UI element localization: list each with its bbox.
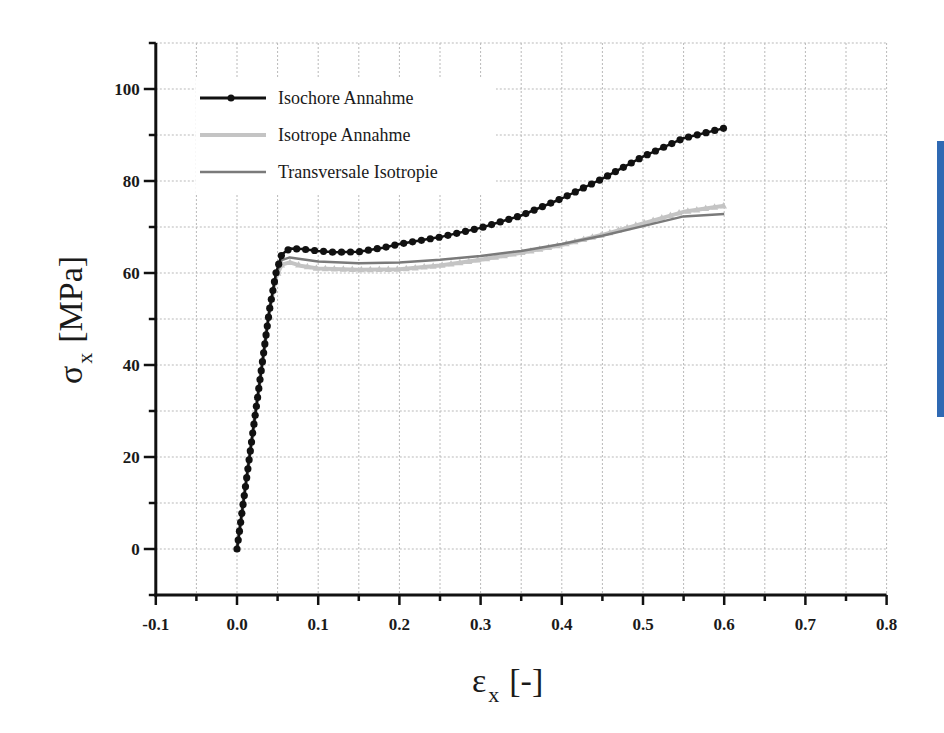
data-point-marker (391, 241, 398, 248)
svg-text:σx[MPa]: σx[MPa] (52, 256, 97, 384)
data-point-marker (233, 545, 240, 552)
x-tick-label: 0.1 (308, 615, 329, 634)
data-point-marker (236, 528, 243, 535)
data-point-marker (471, 226, 478, 233)
data-point-marker (604, 172, 611, 179)
data-point-marker (247, 447, 254, 454)
data-point-marker (266, 305, 273, 312)
legend-label: Isochore Annahme (278, 88, 413, 108)
y-tick-label: 60 (123, 264, 140, 283)
data-point-marker (668, 140, 675, 147)
data-point-marker (636, 155, 643, 162)
data-point-marker (418, 237, 425, 244)
x-tick-label: 0.3 (470, 615, 491, 634)
data-point-marker (660, 144, 667, 151)
x-tick-label: 0.8 (876, 615, 897, 634)
data-point-marker (249, 429, 256, 436)
data-point-marker (320, 248, 327, 255)
data-point-marker (620, 164, 627, 171)
x-tick-label: 0.0 (226, 615, 247, 634)
x-tick-label: 0.4 (551, 615, 573, 634)
data-point-marker (252, 412, 259, 419)
data-point-marker (311, 247, 318, 254)
data-point-marker (453, 230, 460, 237)
x-axis-unit: [-] (509, 662, 543, 699)
data-point-marker (514, 213, 521, 220)
y-axis-subscript: x (72, 353, 97, 364)
data-point-marker (555, 196, 562, 203)
data-point-marker (444, 232, 451, 239)
data-point-marker (547, 200, 554, 207)
data-point-marker (685, 133, 692, 140)
y-tick-label: 100 (114, 80, 140, 99)
data-point-marker (241, 492, 248, 499)
data-point-marker (254, 394, 261, 401)
data-point-marker (564, 192, 571, 199)
svg-text:εx[-]: εx[-] (472, 662, 543, 707)
data-point-marker (246, 456, 253, 463)
data-point-marker (253, 403, 260, 410)
y-tick-label: 40 (123, 356, 140, 375)
side-color-bar (937, 141, 944, 417)
x-axis-subscript: x (488, 682, 499, 707)
y-tick-label: 20 (123, 448, 140, 467)
y-axis-ticks: 020406080100 (114, 43, 156, 595)
data-point-marker (676, 136, 683, 143)
data-point-marker (479, 224, 486, 231)
x-tick-label: 0.5 (632, 615, 653, 634)
data-point-marker (531, 206, 538, 213)
data-point-marker (588, 180, 595, 187)
data-point-marker (365, 247, 372, 254)
data-point-marker (272, 269, 279, 276)
data-point-marker (409, 238, 416, 245)
data-point-marker (238, 510, 245, 517)
data-point-marker (278, 252, 285, 259)
data-point-marker (497, 218, 504, 225)
data-point-marker (269, 287, 276, 294)
legend: Isochore Annahme Isotrope Annahme Transv… (196, 78, 496, 194)
data-point-marker (711, 127, 718, 134)
data-point-marker (488, 221, 495, 228)
x-tick-label: 0.2 (389, 615, 410, 634)
data-point-marker (628, 159, 635, 166)
data-point-marker (436, 234, 443, 241)
data-point-marker (256, 376, 263, 383)
data-point-marker (302, 246, 309, 253)
data-point-marker (244, 465, 251, 472)
y-axis-symbol: σ (52, 366, 89, 384)
data-point-marker (264, 322, 271, 329)
data-point-marker (400, 240, 407, 247)
data-point-marker (694, 131, 701, 138)
data-point-marker (275, 261, 282, 268)
data-point-marker (239, 501, 246, 508)
y-axis-title: σx[MPa] (52, 256, 97, 384)
y-axis-unit: [MPa] (52, 256, 89, 343)
data-point-marker (259, 358, 266, 365)
data-point-marker (242, 483, 249, 490)
data-point-marker (237, 519, 244, 526)
data-point-marker (284, 246, 291, 253)
data-point-marker (258, 367, 265, 374)
data-point-marker (255, 385, 262, 392)
data-point-marker (612, 168, 619, 175)
x-axis-symbol: ε (472, 662, 486, 699)
data-point-marker (539, 203, 546, 210)
data-point-marker (374, 245, 381, 252)
x-tick-label: 0.6 (714, 615, 735, 634)
legend-label: Isotrope Annahme (278, 125, 410, 145)
data-point-marker (248, 438, 255, 445)
y-tick-label: 0 (131, 540, 140, 559)
series-line (237, 206, 724, 549)
data-point-marker (338, 249, 345, 256)
data-point-marker (260, 349, 267, 356)
data-point-marker (644, 151, 651, 158)
data-point-marker (265, 314, 272, 321)
data-point-marker (250, 421, 257, 428)
data-point-marker (427, 235, 434, 242)
data-point-marker (572, 188, 579, 195)
data-point-marker (293, 245, 300, 252)
data-point-marker (382, 243, 389, 250)
data-point-marker (243, 474, 250, 481)
data-point-marker (702, 129, 709, 136)
data-point-marker (580, 184, 587, 191)
